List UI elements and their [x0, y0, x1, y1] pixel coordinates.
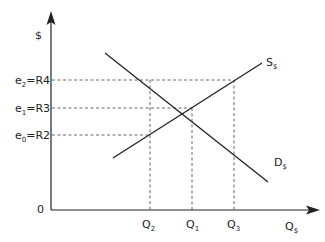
tick-label-q1: Q1 [186, 218, 199, 233]
supply-demand-chart: $ 0 e2=R4 e1=R3 e0=R2 Q2 Q1 Q3 Q$ S$ D$ [0, 0, 325, 242]
demand-label: D$ [274, 156, 287, 171]
tick-label-e2: e2=R4 [15, 74, 50, 89]
supply-label: S$ [266, 56, 277, 71]
demand-curve [105, 53, 268, 182]
tick-label-e0: e0=R2 [15, 129, 50, 144]
x-axis-label: Q$ [285, 220, 298, 235]
tick-label-e1: e1=R3 [15, 102, 50, 117]
tick-label-q2: Q2 [142, 218, 155, 233]
origin-label: 0 [37, 203, 44, 216]
y-axis-label: $ [35, 29, 42, 42]
guide-lines [52, 80, 234, 210]
tick-label-q3: Q3 [227, 218, 240, 233]
